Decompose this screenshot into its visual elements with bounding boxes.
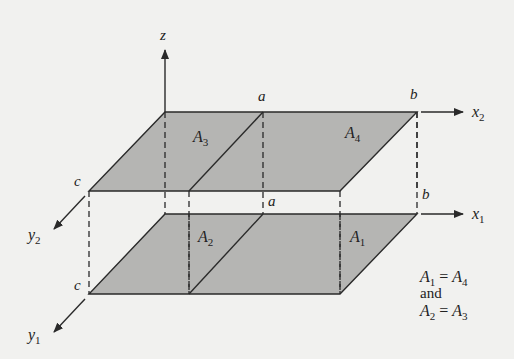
y1-axis: [54, 299, 85, 332]
point-c-top: c: [74, 173, 81, 189]
bottom-plane: [89, 214, 417, 294]
svg-text:and: and: [420, 285, 442, 301]
x2-axis-label: x2: [471, 103, 485, 123]
svg-text:A2=A3: A2=A3: [419, 302, 468, 322]
point-b-top: b: [410, 86, 418, 102]
equality-note: A1=A4 and A2=A3: [419, 268, 468, 322]
y1-axis-label: y1: [26, 326, 41, 346]
point-b-bottom: b: [422, 186, 430, 202]
top-plane: [89, 112, 417, 191]
y2-axis: [54, 196, 85, 229]
point-a-top: a: [258, 88, 266, 104]
point-c-bottom: c: [74, 277, 81, 293]
x1-axis-label: x1: [471, 205, 485, 225]
diagram-canvas: z x2 x1 y2 y1 a b a b c c A3 A4 A2 A1 A1…: [0, 0, 514, 359]
z-axis-label: z: [159, 27, 166, 43]
point-a-bottom: a: [268, 193, 276, 209]
y2-axis-label: y2: [26, 226, 41, 246]
